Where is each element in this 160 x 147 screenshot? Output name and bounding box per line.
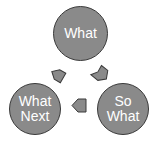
arrow-so-what-to-what-next-icon (72, 99, 86, 112)
node-what-next-line-1: What (19, 94, 52, 109)
node-what-next: What Next (9, 83, 61, 135)
node-so-what-line-2: What (107, 109, 140, 124)
node-so-what-line-1: So (114, 94, 131, 109)
node-so-what: So What (97, 83, 149, 135)
arrow-what-next-to-what-icon (49, 67, 66, 83)
arrow-what-to-so-what-icon (91, 64, 112, 85)
node-what: What (53, 6, 108, 61)
node-what-next-line-2: Next (21, 109, 50, 124)
node-what-line-1: What (64, 26, 97, 41)
